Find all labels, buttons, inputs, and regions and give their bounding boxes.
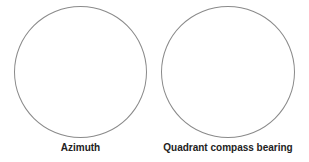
quadrant-bearing-circle — [161, 6, 295, 138]
azimuth-label: Azimuth — [14, 142, 147, 153]
quadrant-bearing-label: Quadrant compass bearing — [161, 142, 295, 153]
azimuth-circle — [14, 6, 147, 138]
